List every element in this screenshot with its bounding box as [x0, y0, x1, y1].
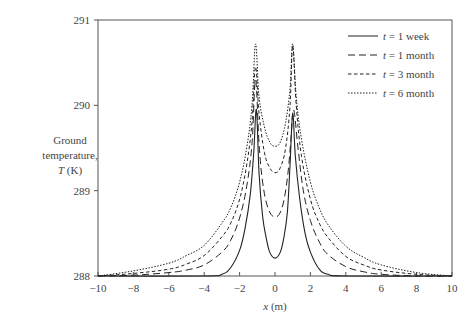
y-tick-label: 291	[74, 14, 91, 26]
series-line-2	[98, 80, 452, 276]
x-tick-label: −10	[89, 282, 107, 294]
x-tick-label: 8	[414, 282, 420, 294]
y-tick-label: 289	[74, 185, 91, 197]
legend-label: t = 3 month	[383, 68, 435, 80]
x-tick-label: 0	[272, 282, 278, 294]
y-axis-title-line-3: T (K)	[30, 163, 110, 178]
x-axis-title: x (m)	[262, 300, 287, 313]
y-axis-title-line-1: Ground	[30, 133, 110, 148]
legend-label: t = 1 month	[383, 49, 435, 61]
x-tick-label: 2	[308, 282, 314, 294]
legend-label: t = 6 month	[383, 87, 435, 99]
x-tick-label: −2	[234, 282, 246, 294]
legend-label: t = 1 week	[383, 30, 430, 42]
x-tick-label: 4	[343, 282, 349, 294]
x-tick-label: −4	[198, 282, 210, 294]
x-tick-label: 10	[447, 282, 459, 294]
series-line-3	[98, 46, 452, 276]
y-axis-title: Ground temperature, T (K)	[30, 133, 110, 178]
series-line-1	[98, 109, 452, 276]
x-tick-label: 6	[378, 282, 384, 294]
legend: t = 1 weekt = 1 montht = 3 montht = 6 mo…	[348, 30, 435, 99]
y-tick-label: 288	[74, 270, 91, 282]
y-tick-label: 290	[74, 99, 91, 111]
y-axis-title-line-2: temperature,	[30, 148, 110, 163]
x-tick-label: −8	[128, 282, 140, 294]
x-axis-ticks: −10−8−6−4−20246810	[89, 272, 458, 294]
x-tick-label: −6	[163, 282, 175, 294]
